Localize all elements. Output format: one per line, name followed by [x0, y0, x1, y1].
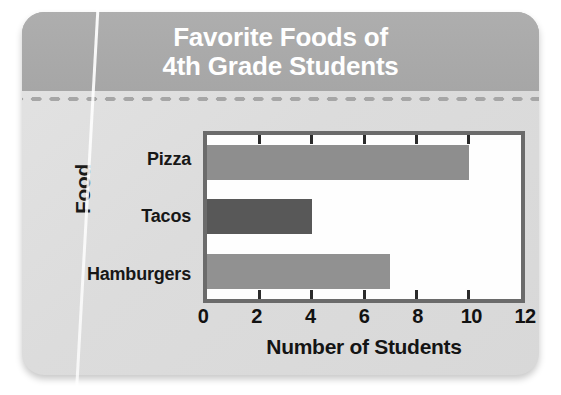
plot-inner: [207, 135, 521, 299]
tick-mark: [258, 135, 261, 144]
x-tick-label: 4: [305, 305, 316, 328]
tick-mark: [310, 135, 313, 144]
x-tick-label: 2: [251, 305, 262, 328]
chart-title-banner: Favorite Foods of 4th Grade Students: [22, 12, 539, 91]
tick-mark: [310, 290, 313, 299]
dotted-divider: [22, 95, 539, 103]
category-label: Hamburgers: [62, 246, 197, 303]
bar-tacos: [207, 199, 312, 234]
plot-frame: [203, 131, 525, 303]
chart-title: Favorite Foods of 4th Grade Students: [162, 23, 398, 79]
tick-mark: [415, 290, 418, 299]
category-label-list: PizzaTacosHamburgers: [62, 131, 197, 303]
x-axis-label: Number of Students: [203, 335, 525, 359]
x-tick-label: 12: [514, 305, 535, 328]
category-label: Tacos: [62, 188, 197, 245]
tick-mark: [363, 135, 366, 144]
x-tick-label: 6: [359, 305, 370, 328]
chart-card: Favorite Foods of 4th Grade Students Foo…: [22, 12, 539, 375]
bar-pizza: [207, 145, 469, 180]
tick-mark: [415, 135, 418, 144]
tick-mark: [258, 290, 261, 299]
plot-row: [207, 190, 521, 245]
x-tick-label: 0: [198, 305, 209, 328]
tick-mark: [467, 290, 470, 299]
category-label: Pizza: [62, 131, 197, 188]
tick-mark: [467, 135, 470, 144]
x-tick-label: 8: [412, 305, 423, 328]
page-background: Favorite Foods of 4th Grade Students Foo…: [0, 0, 561, 395]
bar-hamburgers: [207, 254, 390, 289]
x-tick-label: 10: [461, 305, 482, 328]
x-axis-tick-labels: 024681012: [203, 305, 525, 333]
tick-mark: [363, 290, 366, 299]
chart-area: Food PizzaTacosHamburgers 024681012 Numb…: [22, 103, 539, 375]
